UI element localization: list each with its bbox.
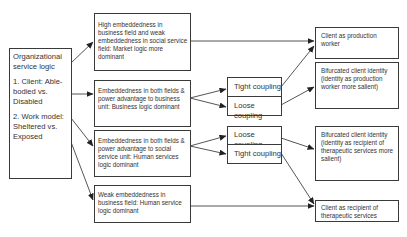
condition-box-c2: Embeddedness in both fields & power adva… (94, 80, 191, 127)
outcome-box-o2: Bifurcated client identity (identity as … (315, 62, 399, 109)
condition-text-c2: Embeddedness in both fields & power adva… (98, 87, 188, 111)
coupling-c3-bottom: Tight coupling (227, 144, 282, 164)
coupling-label: Tight coupling (234, 82, 281, 92)
source-item-1: 1. Client: Able-bodied vs. Disabled (13, 77, 71, 107)
source-item-2: 2. Work model: Sheltered vs. Exposed (13, 112, 71, 142)
arrow-c2-to-tight (190, 89, 226, 98)
condition-box-c1: High embeddedness in business field and … (94, 13, 191, 71)
outcome-box-o3: Bifurcated client identity (identity as … (315, 126, 399, 181)
coupling-c2-bottom: Loose coupling (227, 96, 282, 116)
outcome-text-o1: Client as production worker (321, 32, 397, 48)
outcome-text-o2: Bifurcated client identity (identity as … (321, 67, 397, 91)
arrow-loose-to-o2 (281, 87, 314, 105)
outcome-text-o3: Bifurcated client identity (identity as … (321, 131, 397, 163)
arrow-source-to-c4 (71, 142, 93, 200)
condition-text-c1: High embeddedness in business field and … (98, 21, 188, 61)
coupling-label: Tight coupling (234, 149, 281, 159)
condition-text-c3: Embeddedness in both fields & power adva… (98, 137, 188, 169)
arrow-tight-to-o4 (281, 153, 314, 204)
source-box: Organizational service logic 1. Client: … (9, 48, 72, 179)
arrow-c3-to-tight (190, 146, 226, 154)
condition-box-c3: Embeddedness in both fields & power adva… (94, 130, 191, 177)
arrow-source-to-c1 (71, 42, 93, 63)
outcome-box-o1: Client as production worker (315, 27, 399, 59)
arrow-c3-to-loose (190, 136, 226, 146)
arrow-loose-to-o3 (281, 138, 314, 149)
arrow-tight-to-o1 (281, 46, 314, 87)
coupling-c3-top: Loose coupling (227, 126, 282, 145)
condition-text-c4: Weak embeddedness in business field: Hum… (98, 191, 188, 215)
arrow-source-to-c3 (71, 118, 93, 146)
coupling-c2-top: Tight coupling (227, 77, 282, 97)
condition-box-c4: Weak embeddedness in business field: Hum… (94, 185, 191, 223)
source-title: Organizational service logic (13, 52, 71, 72)
arrow-c2-to-loose (190, 98, 226, 107)
outcome-text-o4: Client as recipient of therapeutic servi… (321, 204, 397, 220)
source-text: Organizational service logic 1. Client: … (13, 52, 71, 142)
coupling-label: Loose coupling (234, 101, 281, 121)
outcome-box-o4: Client as recipient of therapeutic servi… (315, 200, 399, 222)
